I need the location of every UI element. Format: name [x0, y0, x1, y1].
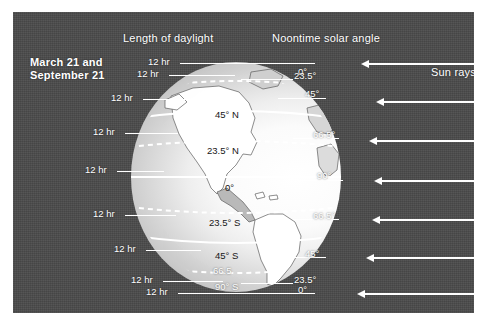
- title-length-of-daylight: Length of daylight: [123, 32, 213, 44]
- daylight-label-4: 12 hr: [93, 126, 115, 137]
- date-label-line1: March 21 and: [30, 56, 105, 69]
- daylight-label-6: 12 hr: [93, 208, 115, 219]
- leader-line-9: [178, 293, 235, 294]
- leader-line-3: [143, 99, 204, 100]
- angle-line-235n: [241, 79, 293, 80]
- angle-label-0-south: 0°: [298, 284, 307, 295]
- sun-ray-arrowhead-6: [366, 254, 374, 262]
- globe-label-0: 0°: [225, 182, 234, 193]
- sun-ray-arrowhead-2: [376, 98, 384, 106]
- sun-ray-5: [379, 219, 474, 221]
- daylight-label-9: 12 hr: [146, 286, 168, 297]
- angle-label-45-north: 45°: [305, 88, 319, 99]
- leader-line-5: [117, 171, 164, 172]
- globe-label-45n: 45° N: [215, 109, 239, 120]
- sun-ray-2: [383, 101, 474, 103]
- sun-ray-arrowhead-4: [374, 177, 382, 185]
- globe-label-235n: 23.5° N: [207, 145, 239, 156]
- daylight-label-7: 12 hr: [114, 243, 136, 254]
- leader-line-8: [163, 281, 223, 282]
- leader-line-1: [180, 63, 240, 64]
- angle-line-235s: [241, 283, 293, 284]
- leader-line-2: [169, 75, 235, 76]
- diagram-panel: Length of daylight Noontime solar angle …: [13, 12, 474, 313]
- globe-label-90s: 90° S: [215, 281, 238, 292]
- sun-ray-6: [373, 257, 474, 259]
- title-noontime-solar-angle: Noontime solar angle: [272, 32, 380, 44]
- daylight-label-5: 12 hr: [85, 164, 107, 175]
- title-sun-rays: Sun rays: [431, 66, 474, 78]
- sun-ray-1: [368, 63, 474, 65]
- date-label: March 21 and September 21: [30, 56, 105, 82]
- angle-label-665-north: 66.5°: [313, 129, 335, 140]
- globe-label-45s: 45° S: [215, 250, 238, 261]
- daylight-label-1: 12 hr: [148, 56, 170, 67]
- leader-line-4: [125, 133, 178, 134]
- leader-line-6: [125, 215, 176, 216]
- equinox-diagram-figure: Length of daylight Noontime solar angle …: [0, 0, 488, 325]
- daylight-label-3: 12 hr: [111, 92, 133, 103]
- daylight-label-8: 12 hr: [131, 274, 153, 285]
- angle-label-235-north: 23.5°: [294, 70, 316, 81]
- globe-label-665s: 66.5: [213, 265, 232, 276]
- daylight-label-2: 12 hr: [137, 68, 159, 79]
- angle-label-665-south: 66.5°: [313, 210, 335, 221]
- date-label-line2: September 21: [30, 69, 105, 82]
- angle-label-45-south: 45°: [305, 248, 319, 259]
- angle-label-90-equator: 90°: [317, 170, 331, 181]
- sun-ray-arrowhead-7: [357, 290, 365, 298]
- leader-line-7: [146, 250, 201, 251]
- angle-line-0n: [239, 63, 315, 64]
- sun-ray-3: [376, 140, 474, 142]
- sun-ray-arrowhead-5: [372, 216, 380, 224]
- sun-ray-arrowhead-3: [369, 137, 377, 145]
- sun-ray-arrowhead-1: [361, 60, 369, 68]
- sun-ray-7: [364, 293, 474, 295]
- globe-label-235s: 23.5° S: [209, 217, 240, 228]
- sun-ray-4: [381, 180, 474, 182]
